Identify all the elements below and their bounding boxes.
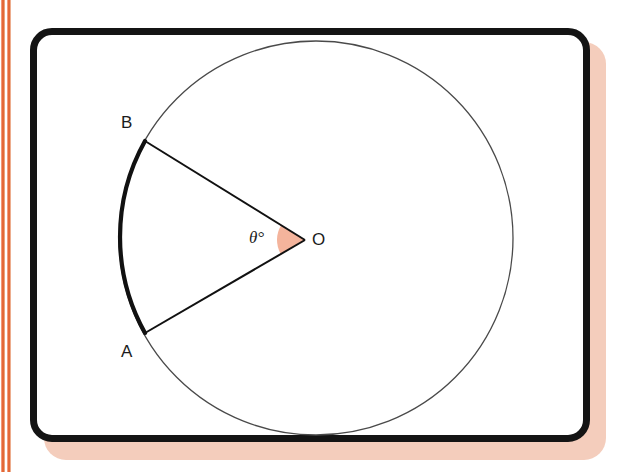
- radius-ob-line: [145, 141, 305, 240]
- point-label-b: B: [121, 114, 132, 131]
- diagram-page: B A O θ°: [0, 0, 634, 472]
- point-label-o: O: [312, 231, 325, 248]
- point-label-a: A: [121, 343, 132, 360]
- theta-angle-wedge: [277, 225, 305, 254]
- angle-label-theta: θ°: [249, 229, 264, 246]
- major-arc-ab: [120, 141, 145, 333]
- radius-oa-line: [145, 240, 305, 333]
